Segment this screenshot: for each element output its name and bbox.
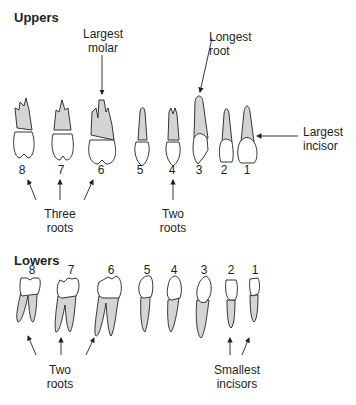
- lower-tooth-5: [139, 276, 153, 332]
- label-largest-incisor: Largest incisor: [303, 125, 349, 153]
- upper-number-8: 8: [15, 163, 29, 177]
- lower-tooth-3: [196, 276, 211, 338]
- lower-tooth-2: [226, 280, 238, 328]
- label-largest-molar: Largest molar: [80, 27, 126, 55]
- label-two-roots-upper: Two roots: [155, 207, 191, 235]
- lower-number-2: 2: [224, 263, 238, 277]
- upper-tooth-4: [166, 108, 180, 166]
- lower-number-4: 4: [167, 263, 181, 277]
- upper-number-3: 3: [192, 163, 206, 177]
- upper-tooth-2: [219, 109, 233, 162]
- arrow-two-roots-lower-8: [28, 336, 36, 355]
- lower-tooth-1: [250, 278, 260, 322]
- lower-tooth-4: [167, 276, 181, 332]
- arrow-three-roots-6: [84, 180, 93, 200]
- lower-number-3: 3: [197, 263, 211, 277]
- upper-tooth-5: [135, 108, 149, 167]
- lower-number-6: 6: [104, 263, 118, 277]
- label-longest-root: Longest root: [209, 30, 255, 58]
- lower-number-1: 1: [248, 263, 262, 277]
- arrow-smallest-incisor-1: [242, 338, 249, 355]
- upper-tooth-8: [14, 98, 34, 158]
- arrow-three-roots-8: [28, 180, 36, 200]
- upper-tooth-6: [89, 100, 116, 164]
- lower-tooth-8: [17, 278, 40, 322]
- label-smallest-incisors: Smallest incisors: [210, 363, 264, 391]
- upper-number-1: 1: [240, 163, 254, 177]
- upper-tooth-7: [52, 100, 73, 160]
- upper-number-4: 4: [165, 163, 179, 177]
- lower-number-5: 5: [140, 263, 154, 277]
- upper-number-2: 2: [217, 163, 231, 177]
- lower-number-8: 8: [25, 263, 39, 277]
- upper-tooth-3: [193, 96, 208, 164]
- upper-tooth-1: [238, 106, 257, 163]
- upper-number-5: 5: [133, 163, 147, 177]
- lower-tooth-6: [95, 276, 121, 336]
- upper-number-7: 7: [54, 163, 68, 177]
- lower-number-7: 7: [64, 263, 78, 277]
- upper-number-6: 6: [94, 163, 108, 177]
- teeth-diagram: [0, 0, 356, 405]
- lower-tooth-7: [55, 278, 79, 332]
- arrow-two-roots-lower-6: [86, 338, 94, 355]
- label-three-roots: Three roots: [40, 207, 80, 235]
- label-two-roots-lower: Two roots: [42, 363, 78, 391]
